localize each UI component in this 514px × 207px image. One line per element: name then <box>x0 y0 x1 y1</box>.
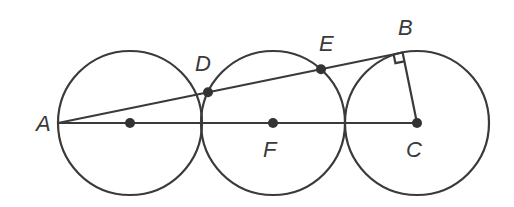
point-c <box>412 118 422 128</box>
label-c: C <box>406 137 422 162</box>
label-f: F <box>263 137 278 162</box>
segment-ab <box>58 53 403 124</box>
point-d <box>203 87 213 97</box>
point-e <box>316 64 326 74</box>
segment-bc <box>403 53 417 124</box>
label-a: A <box>34 111 51 136</box>
geometry-diagram: A D E B F C <box>0 0 514 207</box>
label-b: B <box>398 15 413 40</box>
label-e: E <box>319 31 334 56</box>
point-f <box>268 118 278 128</box>
point-left-center <box>125 118 135 128</box>
label-d: D <box>195 51 211 76</box>
